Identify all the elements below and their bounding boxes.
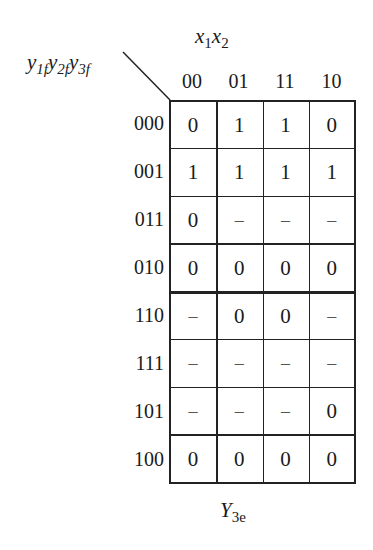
map-caption: Y3e bbox=[220, 498, 246, 526]
kmap-cell: 1 bbox=[263, 149, 309, 197]
kmap-cell: 0 bbox=[309, 388, 355, 436]
row-label: 000 bbox=[108, 112, 164, 135]
column-variables-label: x1x2 bbox=[195, 24, 229, 52]
kmap-cell: – bbox=[263, 388, 309, 436]
row-variables-label: y1fy2fy3f bbox=[27, 50, 90, 78]
row-label: 111 bbox=[108, 352, 164, 375]
kmap-cell: – bbox=[170, 388, 216, 436]
kmap-cell: 0 bbox=[216, 244, 262, 292]
kmap-cell: 0 bbox=[216, 292, 262, 340]
corner-diagonal-line bbox=[120, 50, 172, 102]
row-label: 010 bbox=[108, 256, 164, 279]
kmap-cell: 1 bbox=[309, 149, 355, 197]
kmap-cell: 0 bbox=[170, 435, 216, 483]
kmap-cell: – bbox=[216, 197, 262, 245]
row-label: 100 bbox=[108, 448, 164, 471]
kmap-cell: – bbox=[309, 292, 355, 340]
row-label: 011 bbox=[108, 208, 164, 231]
kmap-cell: – bbox=[309, 340, 355, 388]
kmap-cell: – bbox=[170, 340, 216, 388]
kmap-cell: – bbox=[263, 340, 309, 388]
column-label: 00 bbox=[169, 70, 215, 93]
column-label: 10 bbox=[309, 70, 355, 93]
kmap-cell: 1 bbox=[216, 101, 262, 149]
kmap-cell: – bbox=[263, 197, 309, 245]
kmap-cell: – bbox=[216, 388, 262, 436]
kmap-cell: – bbox=[216, 340, 262, 388]
kmap-cell: 0 bbox=[216, 435, 262, 483]
kmap-cell: 1 bbox=[216, 149, 262, 197]
kmap-cell: 0 bbox=[263, 292, 309, 340]
karnaugh-map-grid: 011011110–––0000–00––––––––00000 bbox=[169, 100, 356, 484]
kmap-cell: 1 bbox=[263, 101, 309, 149]
kmap-cell: 1 bbox=[170, 149, 216, 197]
kmap-cell: – bbox=[309, 197, 355, 245]
row-label: 001 bbox=[108, 160, 164, 183]
column-label: 01 bbox=[216, 70, 262, 93]
kmap-cell: 0 bbox=[309, 244, 355, 292]
kmap-cell: 0 bbox=[263, 435, 309, 483]
kmap-cell: 0 bbox=[170, 244, 216, 292]
kmap-cell: 0 bbox=[263, 244, 309, 292]
kmap-cell: – bbox=[170, 292, 216, 340]
row-label: 110 bbox=[108, 304, 164, 327]
kmap-cell: 0 bbox=[309, 101, 355, 149]
row-label: 101 bbox=[108, 400, 164, 423]
kmap-cell: 0 bbox=[170, 197, 216, 245]
column-label: 11 bbox=[262, 70, 308, 93]
kmap-cell: 0 bbox=[309, 435, 355, 483]
kmap-cell: 0 bbox=[170, 101, 216, 149]
